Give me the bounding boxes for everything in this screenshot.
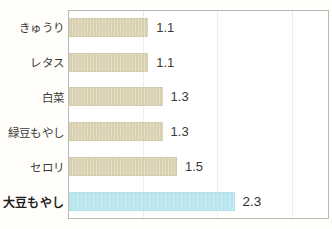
value-label-daizu-moyashi: 2.3: [243, 194, 262, 209]
category-label-hakusai: 白菜: [0, 89, 64, 105]
category-label-retasu: レタス: [0, 54, 64, 70]
bar-kyuuri: [69, 18, 148, 37]
bar-row-ryokutou-moyashi: 緑豆もやし 1.3: [0, 114, 332, 149]
bar-group-daizu-moyashi: 2.3: [69, 192, 261, 211]
category-label-serori: セロリ: [0, 159, 64, 175]
bar-serori: [69, 157, 177, 176]
value-label-kyuuri: 1.1: [156, 20, 174, 35]
category-label-daizu-moyashi: 大豆もやし: [0, 193, 64, 210]
bar-group-serori: 1.5: [69, 157, 203, 176]
value-label-ryokutou-moyashi: 1.3: [171, 124, 189, 139]
category-label-ryokutou-moyashi: 緑豆もやし: [0, 124, 64, 140]
bar-retasu: [69, 53, 148, 72]
bar-row-hakusai: 白菜 1.3: [0, 80, 332, 115]
value-label-hakusai: 1.3: [171, 89, 189, 104]
value-label-serori: 1.5: [185, 159, 203, 174]
bar-group-retasu: 1.1: [69, 53, 174, 72]
bar-rows: きゅうり 1.1 レタス 1.1 白菜 1.3 緑豆もやし 1.: [0, 10, 332, 219]
bar-group-ryokutou-moyashi: 1.3: [69, 122, 189, 141]
horizontal-bar-chart: きゅうり 1.1 レタス 1.1 白菜 1.3 緑豆もやし 1.: [0, 0, 332, 229]
bar-row-serori: セロリ 1.5: [0, 149, 332, 184]
bar-ryokutou-moyashi: [69, 122, 163, 141]
bar-group-hakusai: 1.3: [69, 87, 189, 106]
value-label-retasu: 1.1: [156, 55, 174, 70]
bar-row-daizu-moyashi: 大豆もやし 2.3: [0, 184, 332, 219]
bar-row-kyuuri: きゅうり 1.1: [0, 10, 332, 45]
bar-group-kyuuri: 1.1: [69, 18, 174, 37]
bar-daizu-moyashi: [69, 192, 235, 211]
bar-row-retasu: レタス 1.1: [0, 45, 332, 80]
bar-hakusai: [69, 87, 163, 106]
category-label-kyuuri: きゅうり: [0, 19, 64, 35]
